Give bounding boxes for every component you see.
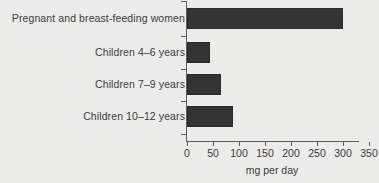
x-axis-tick	[239, 142, 240, 146]
y-axis-tick	[181, 36, 186, 37]
bar-chart: Pregnant and breast-feeding women Childr…	[0, 0, 379, 183]
y-axis-tick	[181, 101, 186, 102]
category-label-pregnant-women: Pregnant and breast-feeding women	[12, 13, 185, 24]
bar-pregnant-women	[187, 8, 343, 29]
y-axis-tick	[181, 69, 186, 70]
x-axis-tick	[317, 142, 318, 146]
x-axis-tick	[291, 142, 292, 146]
x-axis-line	[186, 141, 359, 142]
bar-children-7-9	[187, 74, 221, 95]
x-axis-tick-label: 200	[282, 147, 300, 159]
x-axis-tick-label: 0	[184, 147, 190, 159]
category-label-children-10-12: Children 10–12 years	[83, 111, 185, 122]
x-axis-tick-label: 350	[360, 147, 378, 159]
x-axis-tick-label: 300	[334, 147, 352, 159]
x-axis-tick-label: 250	[308, 147, 326, 159]
x-axis-tick-label: 100	[230, 147, 248, 159]
x-axis-tick	[213, 142, 214, 146]
x-axis-tick	[265, 142, 266, 146]
category-label-children-7-9: Children 7–9 years	[95, 79, 185, 90]
x-axis-tick	[343, 142, 344, 146]
y-axis-line	[186, 1, 187, 142]
bar-children-10-12	[187, 106, 233, 127]
x-axis-tick-label: 150	[256, 147, 274, 159]
x-axis-tick-label: 50	[207, 147, 219, 159]
bar-children-4-6	[187, 42, 210, 63]
y-axis-tick	[181, 1, 186, 2]
category-label-children-4-6: Children 4–6 years	[95, 47, 185, 58]
x-axis-tick	[369, 142, 370, 146]
x-axis-title: mg per day	[246, 164, 299, 176]
x-axis-tick	[187, 142, 188, 146]
y-axis-tick	[181, 134, 186, 135]
